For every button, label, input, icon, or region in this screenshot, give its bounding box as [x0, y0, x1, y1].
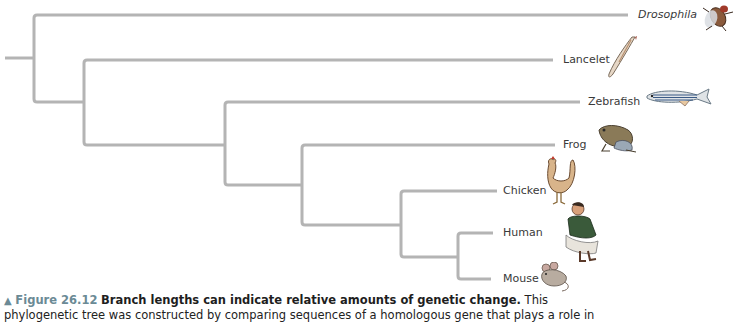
mouse-icon: [538, 262, 572, 292]
taxon-label-lancelet: Lancelet: [563, 54, 610, 66]
taxon-label-chicken: Chicken: [503, 185, 546, 197]
frog-icon: [596, 122, 638, 154]
taxon-label-zebrafish: Zebrafish: [588, 96, 640, 108]
branch-node5: [302, 185, 401, 225]
human-icon: [562, 201, 602, 263]
branch-human: [458, 233, 493, 257]
taxon-label-frog: Frog: [563, 139, 587, 151]
branch-node2: [34, 58, 84, 102]
branch-zebrafish: [225, 102, 580, 145]
caption-line-1: ▲ Figure 26.12 Branch lengths can indica…: [4, 293, 734, 308]
branch-mouse: [458, 257, 491, 279]
fruit-fly-icon: [700, 0, 736, 32]
caption-title: Branch lengths can indicate relative amo…: [101, 293, 521, 307]
branch-frog: [302, 145, 555, 185]
figure-caption: ▲ Figure 26.12 Branch lengths can indica…: [4, 293, 734, 323]
lancelet-icon: [605, 34, 639, 80]
zebrafish-icon: [645, 86, 713, 108]
figure-number: Figure 26.12: [15, 293, 97, 307]
taxon-label-drosophila: Drosophila: [638, 9, 697, 21]
branch-node6: [401, 225, 458, 257]
branch-node4: [225, 145, 302, 185]
taxon-label-human: Human: [503, 227, 543, 239]
branch-node3: [84, 102, 225, 145]
caption-body-start: This: [525, 293, 549, 307]
branch-drosophila: [34, 15, 628, 58]
branch-lancelet: [84, 60, 553, 102]
caption-line-2: phylogenetic tree was constructed by com…: [4, 308, 734, 323]
triangle-marker-icon: ▲: [4, 295, 12, 306]
taxon-label-mouse: Mouse: [503, 273, 539, 285]
branch-chicken: [401, 191, 497, 225]
